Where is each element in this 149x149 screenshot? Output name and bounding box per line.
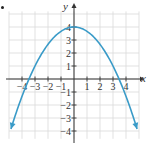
x-tick-label: 3 xyxy=(111,81,116,92)
x-tick-label: −2 xyxy=(43,81,54,92)
parabola-graph: −4−3−2−11234−4−3−2−11234 x y xyxy=(0,0,149,149)
y-tick-label: 2 xyxy=(66,48,71,59)
x-tick-label: −3 xyxy=(30,81,41,92)
axes xyxy=(6,3,144,143)
y-tick-label: −4 xyxy=(60,126,71,137)
x-tick-label: 2 xyxy=(98,81,103,92)
x-axis-label: x xyxy=(140,72,146,84)
y-axis-arrow-icon xyxy=(72,3,77,8)
y-axis-label: y xyxy=(62,0,68,12)
x-tick-label: 1 xyxy=(85,81,90,92)
y-tick-label: −2 xyxy=(60,100,71,111)
y-tick-label: 1 xyxy=(66,61,71,72)
y-tick-label: −3 xyxy=(60,113,71,124)
y-tick-label: 3 xyxy=(66,35,71,46)
y-tick-label: −1 xyxy=(60,87,71,98)
